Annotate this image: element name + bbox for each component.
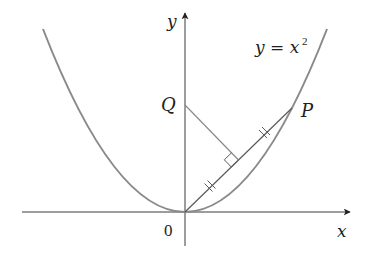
equal-tick-marks-upper	[259, 127, 270, 138]
segment-q-to-midpoint	[185, 105, 239, 160]
x-axis-label: x	[337, 221, 347, 241]
right-angle-marker	[224, 153, 238, 167]
origin-label: 0	[164, 221, 173, 240]
y-axis-label: y	[166, 11, 177, 31]
equal-tick-marks-lower	[205, 181, 216, 192]
point-q-label: Q	[161, 94, 176, 115]
point-p-label: P	[300, 100, 314, 121]
curve-equation-exponent: 2	[302, 35, 308, 47]
parabola-figure: y x 0 y = x 2 Q P	[0, 0, 370, 260]
curve-equation-label: y = x	[254, 37, 300, 57]
